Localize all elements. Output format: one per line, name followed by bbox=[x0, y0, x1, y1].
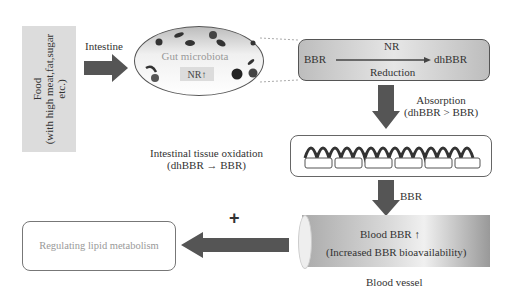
dotted-connectors bbox=[260, 30, 300, 90]
blood-vessel-caption: Blood vessel bbox=[366, 276, 423, 288]
blood-vessel-end bbox=[298, 215, 312, 269]
gut-microbiota-label: Gut microbiota bbox=[160, 50, 230, 62]
food-box: Food (with high meat,fat,sugar etc.) bbox=[22, 26, 76, 152]
bbr-label: BBR bbox=[304, 53, 326, 65]
oxidation-label: Intestinal tissue oxidation (dhBBR → BBR… bbox=[150, 147, 263, 171]
dhbbr-label: dhBBR bbox=[434, 53, 467, 65]
up-arrow-icon: ↑ bbox=[201, 69, 206, 80]
nr-label: NR bbox=[384, 40, 399, 52]
blood-vessel bbox=[302, 215, 490, 267]
right-arrow-icon bbox=[84, 54, 130, 82]
blood-bbr-label: Blood BBR ↑ bbox=[360, 228, 420, 240]
food-text: Food (with high meat,fat,sugar etc.) bbox=[31, 26, 67, 152]
intestine-label: Intestine bbox=[85, 40, 123, 52]
absorption-label: Absorption (dhBBR > BBR) bbox=[404, 94, 478, 118]
reduction-arrow-icon bbox=[336, 55, 432, 65]
bioavailability-label: (Increased BBR bioavailability) bbox=[326, 246, 467, 258]
villi-icon bbox=[302, 138, 482, 172]
down-arrow-icon bbox=[372, 85, 400, 129]
lipid-metabolism-box: Regulating lipid metabolism bbox=[22, 221, 176, 271]
down-arrow-icon bbox=[372, 180, 400, 216]
reduction-label: Reduction bbox=[370, 66, 415, 78]
bbr-transport-label: BBR bbox=[400, 190, 422, 202]
plus-sign: + bbox=[229, 208, 240, 229]
up-arrow-icon: ↑ bbox=[414, 228, 420, 240]
nr-badge: NR↑ bbox=[180, 67, 214, 81]
left-arrow-icon bbox=[181, 232, 291, 258]
